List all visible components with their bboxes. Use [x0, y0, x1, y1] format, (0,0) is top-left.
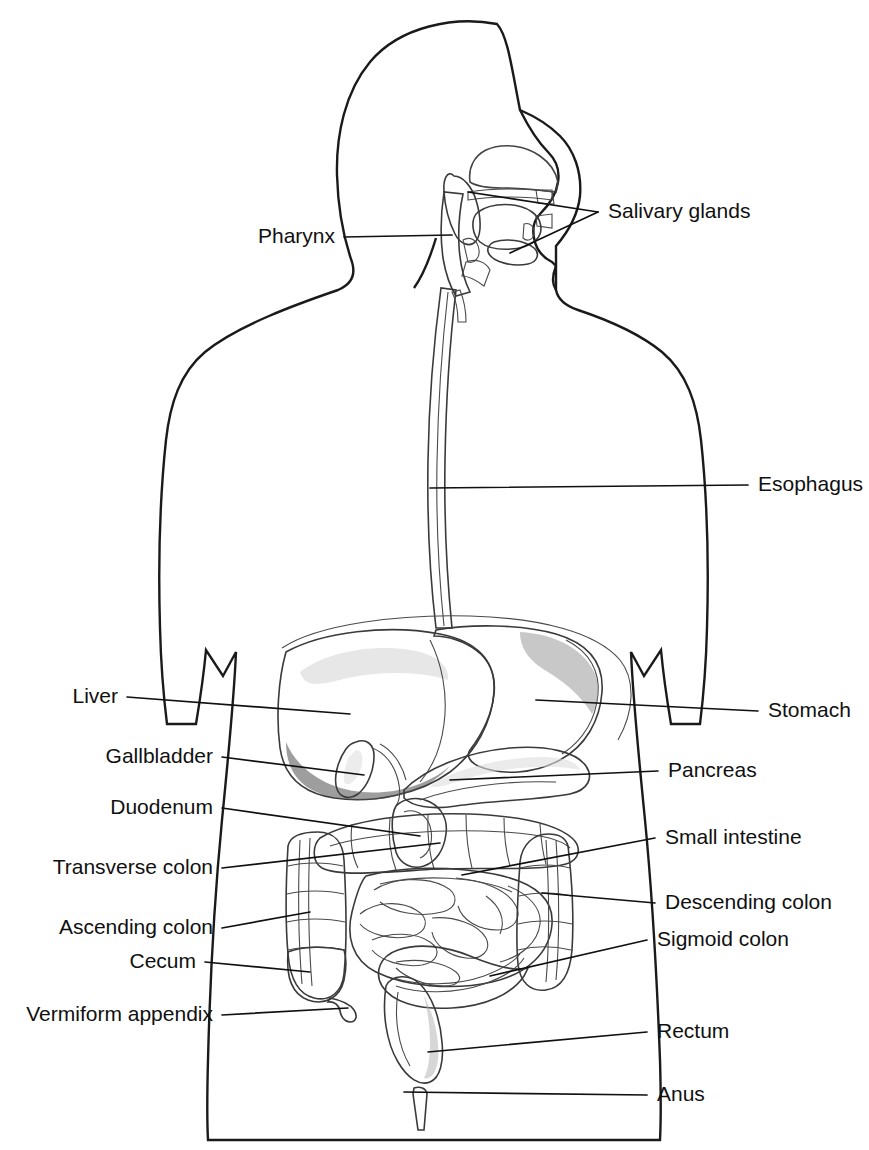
- label-liver: Liver: [72, 684, 118, 707]
- label-pharynx: Pharynx: [258, 224, 336, 247]
- leader-esophagus: [430, 485, 748, 488]
- label-text-right: Salivary glands Esophagus Stomach Pancre…: [608, 199, 863, 1105]
- label-salivary-glands: Salivary glands: [608, 199, 750, 222]
- leader-lines: [127, 192, 758, 1095]
- label-transverse-colon: Transverse colon: [53, 855, 213, 878]
- label-vermiform-appendix: Vermiform appendix: [26, 1002, 213, 1025]
- vermiform-appendix: [328, 998, 356, 1022]
- label-stomach: Stomach: [768, 698, 851, 721]
- leader-pharynx: [344, 235, 452, 237]
- head-sagittal-section: [441, 146, 558, 296]
- leader-stomach: [536, 700, 758, 711]
- label-esophagus: Esophagus: [758, 472, 863, 495]
- diagram-canvas: Pharynx Liver Gallbladder Duodenum Trans…: [0, 0, 869, 1150]
- leader-liver: [127, 697, 350, 714]
- label-sigmoid-colon: Sigmoid colon: [657, 927, 789, 950]
- leader-small-intestine: [462, 838, 655, 875]
- label-ascending-colon: Ascending colon: [59, 915, 213, 938]
- label-descending-colon: Descending colon: [665, 890, 832, 913]
- label-rectum: Rectum: [657, 1019, 729, 1042]
- leader-rectum: [428, 1032, 647, 1052]
- label-gallbladder: Gallbladder: [106, 744, 213, 767]
- label-text-left: Pharynx Liver Gallbladder Duodenum Trans…: [26, 224, 335, 1025]
- label-anus: Anus: [657, 1082, 705, 1105]
- body-silhouette: [159, 21, 708, 1140]
- digestive-system-diagram: Pharynx Liver Gallbladder Duodenum Trans…: [0, 0, 869, 1150]
- cecum: [288, 947, 346, 1002]
- anus: [413, 1087, 427, 1130]
- leader-cecum: [205, 962, 310, 972]
- label-small-intestine: Small intestine: [665, 825, 802, 848]
- esophagus: [428, 288, 466, 628]
- leader-anus: [404, 1092, 647, 1095]
- label-pancreas: Pancreas: [668, 758, 757, 781]
- label-cecum: Cecum: [129, 949, 196, 972]
- rectum: [385, 977, 443, 1083]
- leader-vermiform-appendix: [222, 1008, 348, 1015]
- label-duodenum: Duodenum: [110, 795, 213, 818]
